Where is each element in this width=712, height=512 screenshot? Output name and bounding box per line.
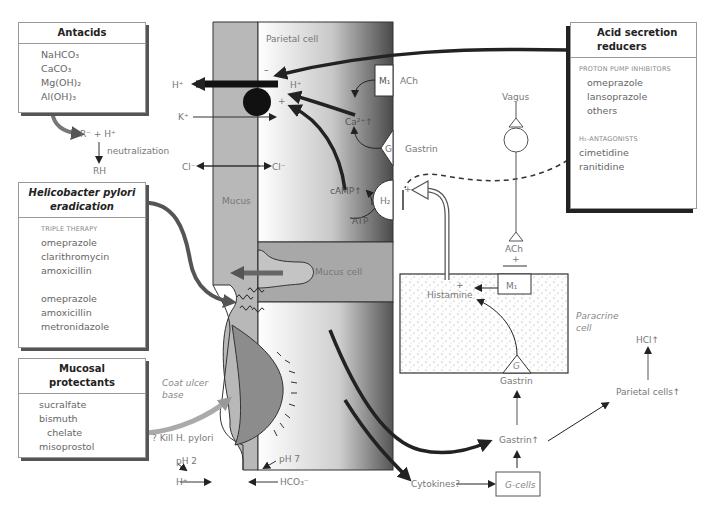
parietal-cell xyxy=(258,22,393,242)
list-item: omeprazole xyxy=(579,76,696,90)
inhibition-minus-sign: – xyxy=(264,65,269,75)
neutralization-label: neutralization xyxy=(107,146,169,156)
list-item: ranitidine xyxy=(579,160,696,174)
neutralization-product: RH xyxy=(93,166,106,176)
paracrine-cell xyxy=(400,274,568,373)
acid-reducers-title-line1: Acid secretion xyxy=(597,26,694,40)
list-item: metronidazole xyxy=(41,320,145,334)
list-item: misoprostol xyxy=(39,440,145,454)
ach-label: ACh xyxy=(400,76,418,86)
antacids-title: Antacids xyxy=(19,23,145,44)
vagus-label: Vagus xyxy=(502,92,529,102)
gastrin-paracrine-label: Gastrin xyxy=(500,376,533,386)
m1-paracrine-label: M₁ xyxy=(506,281,518,291)
list-item: lansoprazole xyxy=(579,90,696,104)
list-item: clarithromycin xyxy=(41,250,145,264)
g-paracrine-label: G xyxy=(513,361,520,371)
acid-reducers-title-line2: reducers xyxy=(597,40,694,54)
proton-pump xyxy=(243,88,271,116)
m1-label: M₁ xyxy=(379,76,391,86)
h-plus-cell-label: H⁺ xyxy=(290,80,302,90)
calcium-label: Ca²⁺↑ xyxy=(345,117,373,127)
cytokines-label: Cytokines? xyxy=(411,479,460,489)
list-item: amoxicillin xyxy=(41,306,145,320)
coat-ulcer-label-line1: Coat ulcer xyxy=(162,378,209,388)
ppi-subhead: PROTON PUMP INHIBITORS xyxy=(579,62,696,76)
antacid-arrow xyxy=(52,112,80,134)
ach-vagus-label: ACh xyxy=(505,244,523,254)
hpylori-title: Helicobacter pylori eradication xyxy=(19,183,145,218)
ph7-label: pH 7 xyxy=(279,454,300,464)
mucosal-title-line2: protectants xyxy=(21,376,143,390)
paracrine-label-line2: cell xyxy=(576,323,592,333)
cl-cell-label: Cl⁻ xyxy=(272,162,286,172)
stimulation-plus-sign: + xyxy=(278,96,286,106)
atp-label: ATP xyxy=(352,216,369,226)
kill-hpylori-label: ? Kill H. pylori xyxy=(152,433,213,443)
h-plus-lumen-label: H⁺ xyxy=(172,80,184,90)
neutralization-reactants: R⁻ + H⁺ xyxy=(80,129,116,139)
ach-plus-sign: + xyxy=(512,254,520,264)
ph2-label: pH 2 xyxy=(176,456,197,466)
acid-reducers-title: Acid secretion reducers xyxy=(571,23,696,58)
h2-receptor-label: H₂ xyxy=(380,196,391,206)
mucosal-protectants-box: Mucosal protectants sucralfate bismuth c… xyxy=(18,358,146,458)
list-item: amoxicillin xyxy=(41,264,145,278)
h2-plus-sign: + xyxy=(404,184,412,194)
mucosal-title-line1: Mucosal xyxy=(21,362,143,376)
list-item: CaCO₃ xyxy=(41,62,145,76)
g-receptor-label: G xyxy=(385,144,392,154)
h2-antagonists-subhead: H₂-ANTAGONISTS xyxy=(579,132,696,146)
mucosal-protectant-arrow xyxy=(147,400,228,433)
vagus-neuron xyxy=(503,102,528,266)
g-cells-label: G-cells xyxy=(505,480,536,490)
list-item: Mg(OH)₂ xyxy=(41,76,145,90)
k-plus-label: K⁺ xyxy=(178,112,189,122)
hcl-label: HCl↑ xyxy=(636,335,659,345)
hpylori-eradication-box: Helicobacter pylori eradication TRIPLE T… xyxy=(18,182,146,348)
coat-ulcer-label-line2: base xyxy=(162,390,184,400)
mucus-label: Mucus xyxy=(222,196,251,206)
mucosal-title: Mucosal protectants xyxy=(19,359,145,394)
parietal-cell-label: Parietal cell xyxy=(266,34,318,44)
parietal-cells-label: Parietal cells↑ xyxy=(616,387,680,397)
triple-therapy-subhead: TRIPLE THERAPY xyxy=(41,222,145,236)
hpylori-title-line1: Helicobacter pylori xyxy=(21,186,143,200)
list-item: cimetidine xyxy=(579,146,696,160)
antacids-box: Antacids NaHCO₃ CaCO₃ Mg(OH)₂ Al(OH)₃ xyxy=(18,22,146,113)
hpylori-title-line2: eradication xyxy=(21,200,143,214)
hco3-label: HCO₃⁻ xyxy=(280,477,309,487)
camp-label: cAMP↑ xyxy=(330,186,362,196)
list-item: NaHCO₃ xyxy=(41,48,145,62)
acid-secretion-reducers-box: Acid secretion reducers PROTON PUMP INHI… xyxy=(570,22,697,209)
paracrine-label-line1: Paracrine xyxy=(576,311,619,321)
list-item: Al(OH)₃ xyxy=(41,90,145,104)
list-item: chelate xyxy=(39,426,145,440)
h-plus-bottom-label: H⁺ xyxy=(176,477,188,487)
mucus-cell-label: Mucus cell xyxy=(315,267,362,277)
list-item: bismuth xyxy=(39,412,145,426)
h2-antagonist-dashed-line xyxy=(405,160,568,188)
gastrin-up-label: Gastrin↑ xyxy=(499,435,539,445)
cl-lumen-label: Cl⁻ xyxy=(182,162,196,172)
list-item: omeprazole xyxy=(41,236,145,250)
antacids-list: NaHCO₃ CaCO₃ Mg(OH)₂ Al(OH)₃ xyxy=(19,44,145,104)
list-item: sucralfate xyxy=(39,398,145,412)
list-item: omeprazole xyxy=(41,292,145,306)
list-item: others xyxy=(579,104,696,118)
gastrin-label: Gastrin xyxy=(405,144,438,154)
histamine-to-h2-arrow xyxy=(425,190,447,280)
histamine-plus-sign: + xyxy=(456,280,464,290)
histamine-label: Histamine xyxy=(427,290,473,300)
